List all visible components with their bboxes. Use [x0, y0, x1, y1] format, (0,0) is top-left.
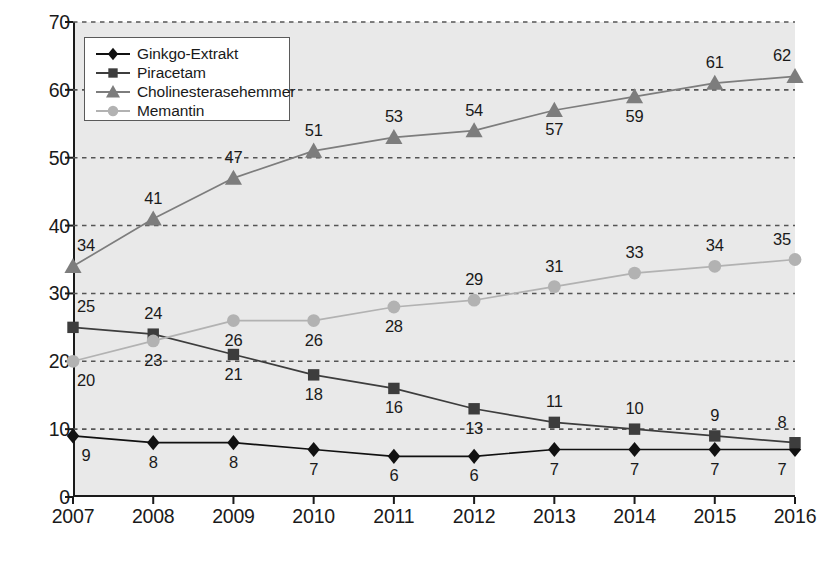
data-label: 61 — [706, 53, 724, 72]
data-label: 7 — [630, 460, 639, 479]
square-marker-icon — [308, 369, 319, 380]
legend-item-label: Cholinesterasehemmer — [137, 83, 295, 101]
x-axis-tick-label: 2009 — [212, 505, 255, 528]
data-label: 26 — [305, 331, 323, 350]
square-marker-icon — [228, 349, 239, 360]
data-label: 13 — [465, 419, 483, 438]
data-label: 47 — [224, 148, 242, 167]
square-marker-icon — [468, 403, 479, 414]
data-label: 9 — [710, 406, 719, 425]
series-memantin — [67, 253, 802, 368]
diamond-marker-icon — [108, 47, 118, 59]
circle-marker-icon — [789, 253, 802, 266]
square-marker-icon — [549, 417, 560, 428]
x-axis-tick-label: 2015 — [693, 505, 736, 528]
data-label: 59 — [626, 107, 644, 126]
triangle-marker-icon — [95, 83, 131, 101]
data-label: 26 — [224, 331, 242, 350]
square-marker-icon — [789, 437, 800, 448]
square-marker-icon — [709, 430, 720, 441]
square-marker-icon — [388, 383, 399, 394]
x-axis-tick-label: 2008 — [132, 505, 175, 528]
data-label: 21 — [224, 365, 242, 384]
data-label: 51 — [305, 121, 323, 140]
chart-legend: Ginkgo-ExtraktPiracetamCholinesterasehem… — [84, 37, 290, 121]
legend-item-label: Piracetam — [137, 64, 206, 82]
data-label: 7 — [778, 460, 787, 479]
x-axis-tick-label: 2012 — [453, 505, 496, 528]
y-tick-mark-group — [65, 22, 73, 497]
data-label: 57 — [545, 120, 563, 139]
circle-marker-icon — [147, 335, 160, 348]
data-label: 6 — [389, 466, 398, 485]
data-label: 20 — [77, 371, 95, 390]
legend-symbol-graphic — [95, 83, 131, 101]
circle-marker-icon — [628, 267, 641, 280]
x-axis-tick-label: 2014 — [613, 505, 656, 528]
data-label: 11 — [546, 392, 563, 411]
legend-item-cholinesterasehemmer[interactable]: Cholinesterasehemmer — [95, 82, 289, 101]
data-label: 8 — [149, 453, 158, 472]
data-label: 23 — [144, 351, 162, 370]
data-label: 35 — [773, 230, 791, 249]
series-line — [73, 327, 795, 442]
data-label: 9 — [82, 446, 91, 465]
data-label: 8 — [778, 413, 787, 432]
legend-symbol-graphic — [95, 102, 131, 120]
circle-marker-icon — [108, 105, 118, 115]
diamond-marker-icon — [468, 449, 480, 464]
x-axis-tick-label: 2010 — [292, 505, 335, 528]
triangle-marker-icon — [786, 68, 803, 83]
circle-marker-icon — [468, 294, 481, 307]
x-tick-mark-group — [73, 497, 795, 504]
data-label: 24 — [144, 304, 162, 323]
circle-marker-icon — [307, 314, 320, 327]
data-label: 33 — [626, 243, 644, 262]
diamond-marker-icon — [548, 442, 560, 457]
data-label: 54 — [465, 101, 483, 120]
data-label: 41 — [144, 189, 162, 208]
square-marker-icon — [108, 68, 117, 77]
square-marker-icon — [629, 423, 640, 434]
data-label: 29 — [465, 270, 483, 289]
data-label: 25 — [77, 297, 95, 316]
data-label: 53 — [385, 107, 403, 126]
legend-item-label: Ginkgo-Extrakt — [137, 45, 238, 63]
legend-symbol-graphic — [95, 45, 131, 63]
data-label: 18 — [305, 385, 323, 404]
diamond-marker-icon — [628, 442, 640, 457]
data-label: 8 — [229, 453, 238, 472]
triangle-marker-icon — [64, 258, 81, 273]
triangle-marker-icon — [225, 170, 242, 185]
data-label: 34 — [77, 236, 95, 255]
x-axis-tick-label: 2016 — [774, 505, 817, 528]
diamond-marker-icon — [227, 435, 239, 450]
data-label: 6 — [470, 466, 479, 485]
square-marker-icon — [95, 64, 131, 82]
circle-marker-icon — [95, 102, 131, 120]
data-label: 7 — [550, 460, 559, 479]
data-label: 7 — [710, 460, 719, 479]
legend-item-memantin[interactable]: Memantin — [95, 101, 289, 120]
x-axis-tick-label: 2011 — [373, 505, 414, 528]
diamond-marker-icon — [67, 428, 79, 443]
diamond-marker-icon — [147, 435, 159, 450]
diamond-marker-icon — [388, 449, 400, 464]
circle-marker-icon — [548, 280, 561, 293]
legend-item-piracetam[interactable]: Piracetam — [95, 63, 289, 82]
series-line — [73, 260, 795, 362]
diamond-marker-icon — [95, 45, 131, 63]
square-marker-icon — [67, 322, 78, 333]
data-label: 10 — [626, 399, 644, 418]
legend-symbol-graphic — [95, 64, 131, 82]
data-label: 31 — [545, 257, 563, 276]
data-label: 16 — [385, 398, 403, 417]
circle-marker-icon — [387, 301, 400, 314]
data-label: 7 — [309, 460, 318, 479]
x-axis-tick-label: 2007 — [52, 505, 95, 528]
legend-item-ginkgo-extrakt[interactable]: Ginkgo-Extrakt — [95, 44, 289, 63]
data-label: 28 — [385, 317, 403, 336]
data-label: 34 — [706, 236, 724, 255]
series-line — [73, 436, 795, 456]
circle-marker-icon — [708, 260, 721, 273]
